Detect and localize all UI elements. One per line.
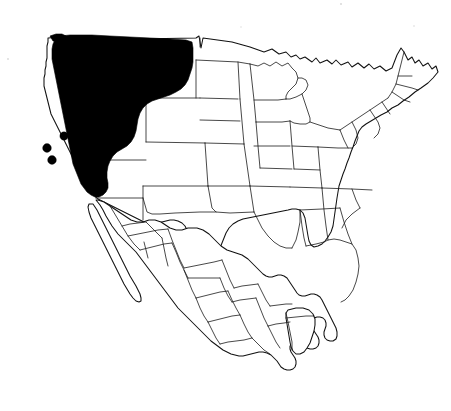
- occurrence-point-2: [43, 144, 52, 153]
- occurrence-point-3: [48, 156, 57, 165]
- map-canvas: [0, 0, 451, 411]
- occurrence-point-1: [60, 132, 68, 140]
- distribution-map-figure: North America: [0, 0, 451, 411]
